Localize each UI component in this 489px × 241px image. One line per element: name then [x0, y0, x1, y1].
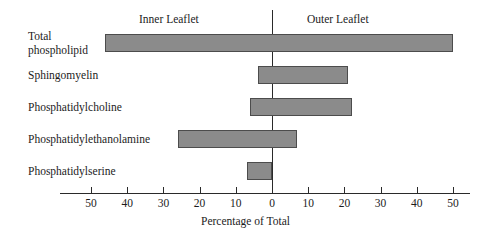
x-axis-line — [60, 193, 470, 194]
bar-sphingomyelin — [258, 66, 349, 84]
x-axis-tick-label: 30 — [375, 196, 387, 210]
x-axis-tick-label: 40 — [411, 196, 423, 210]
x-axis-tick — [127, 187, 128, 193]
x-axis-tick-label: 20 — [194, 196, 206, 210]
x-axis-tick — [344, 187, 345, 193]
bar-total-phospholipid — [105, 34, 453, 52]
table-row: Total phospholipid — [0, 28, 489, 58]
table-row: Phosphatidylethanolamine — [0, 124, 489, 154]
x-axis-tick — [163, 187, 164, 193]
category-label: Phosphatidylcholine — [28, 101, 122, 114]
x-axis-tick — [236, 187, 237, 193]
table-row: Phosphatidylserine — [0, 156, 489, 186]
x-axis-tick-label: 10 — [230, 196, 242, 210]
category-label-line1: Total — [28, 30, 51, 42]
x-axis-tick-label: 0 — [269, 196, 275, 210]
inner-leaflet-header-label: Inner Leaflet — [139, 12, 199, 26]
x-axis-tick-label: 50 — [447, 196, 459, 210]
chart-container: Inner Leaflet Outer Leaflet Total phosph… — [0, 0, 489, 241]
x-axis-tick — [272, 187, 273, 193]
table-row: Sphingomyelin — [0, 60, 489, 90]
category-label: Sphingomyelin — [28, 69, 98, 82]
table-row: Phosphatidylcholine — [0, 92, 489, 122]
x-axis-tick-label: 50 — [85, 196, 97, 210]
outer-leaflet-header-label: Outer Leaflet — [307, 12, 369, 26]
x-axis-tick — [381, 187, 382, 193]
x-axis-tick — [200, 187, 201, 193]
bar-phosphatidylcholine — [250, 98, 351, 116]
x-axis-tick — [417, 187, 418, 193]
x-axis-tick-label: 20 — [339, 196, 351, 210]
category-label: Phosphatidylserine — [28, 165, 116, 178]
bar-phosphatidylethanolamine — [178, 130, 297, 148]
category-label: Phosphatidylethanolamine — [28, 133, 150, 146]
x-axis-title-text: Percentage of Total — [201, 215, 290, 227]
x-axis-title: Percentage of Total — [0, 214, 489, 228]
category-label-line2: phospholipid — [28, 43, 88, 55]
x-axis-tick — [308, 187, 309, 193]
x-axis-tick — [91, 187, 92, 193]
x-axis-tick-label: 40 — [121, 196, 133, 210]
x-axis-tick — [453, 187, 454, 193]
bar-phosphatidylserine — [247, 162, 272, 180]
x-axis-tick-label: 10 — [302, 196, 314, 210]
x-axis-tick-label: 30 — [158, 196, 170, 210]
